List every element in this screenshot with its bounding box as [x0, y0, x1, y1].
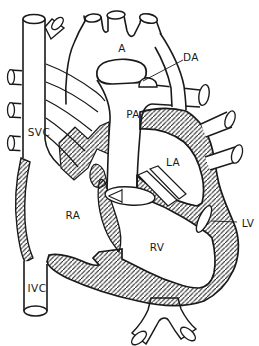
label-left-atrium: LA	[166, 156, 180, 168]
heart-anatomy-figure: A DA PA SVC LA RA LV RV IVC	[0, 0, 259, 346]
label-pulmonary-artery: PA	[126, 108, 140, 120]
right-atrium-wall	[16, 158, 33, 262]
label-right-ventricle: RV	[150, 241, 165, 253]
label-inferior-vena-cava: IVC	[28, 282, 47, 294]
arch-branch-opening	[85, 13, 102, 23]
svc-opening	[23, 15, 45, 24]
heart-diagram: A DA PA SVC LA RA LV RV IVC	[0, 0, 259, 346]
arch-branch-opening	[107, 10, 126, 19]
label-superior-vena-cava: SVC	[28, 126, 50, 138]
arch-branch-opening	[139, 12, 158, 25]
vessel-opening	[197, 84, 210, 106]
ductus-arteriosus-bump	[139, 78, 157, 87]
vein-opening	[229, 143, 244, 164]
label-left-ventricle: LV	[242, 217, 255, 229]
ivc-opening	[24, 306, 47, 316]
label-aorta: A	[118, 42, 126, 54]
label-right-atrium: RA	[66, 209, 81, 221]
arch-window	[97, 59, 146, 84]
innominate-stub	[45, 15, 65, 39]
label-ductus-arteriosus: DA	[183, 51, 199, 63]
superior-vena-cava	[20, 15, 60, 172]
